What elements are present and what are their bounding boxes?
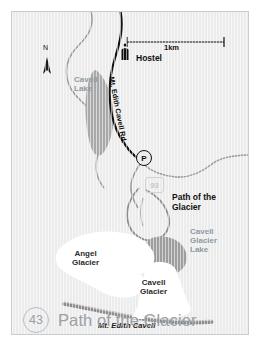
parking-icon: P <box>136 150 152 166</box>
cavell-glacier-lake-label: Cavell Glacier Lake <box>190 228 217 255</box>
hostel-label: Hostel <box>136 54 162 64</box>
page-title: Path of the Glacier <box>58 311 197 330</box>
north-label: N <box>43 44 48 52</box>
path-of-the-glacier-label: Path of the Glacier <box>172 193 216 212</box>
map-title-bar: 43 Path of the Glacier <box>11 304 249 336</box>
map-canvas <box>12 12 249 335</box>
cavell-lake-label: Cavell Lake <box>74 76 98 94</box>
parking-symbol: P <box>141 154 146 163</box>
route-badge: 43 <box>23 307 49 333</box>
map-frame: N 1km Hostel Cavell Lake Mt. Edith Cavel… <box>11 11 249 335</box>
scale-label: 1km <box>164 44 179 52</box>
cavell-glacier-label: Cavell Glacier <box>140 279 167 297</box>
map-figure: N 1km Hostel Cavell Lake Mt. Edith Cavel… <box>0 0 260 347</box>
angel-glacier-label: Angel Glacier <box>72 250 99 268</box>
highway-shield-93: 93 <box>145 177 164 193</box>
